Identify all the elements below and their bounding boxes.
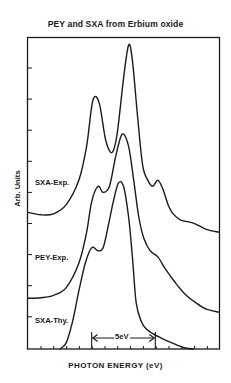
plot-svg [0,0,231,383]
scale-bar-label: 5eV [114,332,130,341]
chart-area: PEY and SXA from Erbium oxide Arb. Units… [0,0,231,383]
chart-title: PEY and SXA from Erbium oxide [0,19,231,29]
series-label-sxa-thy: SXA-Thy. [35,316,68,325]
curves [28,44,219,349]
series-label-sxa-exp: SXA-Exp. [35,178,69,187]
series-label-pey-exp: PEY-Exp. [35,253,68,262]
y-axis-label: Arb. Units [13,159,22,219]
curve-sxa-thy [60,182,194,349]
x-axis-label: PHOTON ENERGY (eV) [0,361,231,370]
y-axis-ticks [28,68,32,317]
curve-pey-exp [28,134,219,312]
curve-sxa-exp [28,44,219,232]
